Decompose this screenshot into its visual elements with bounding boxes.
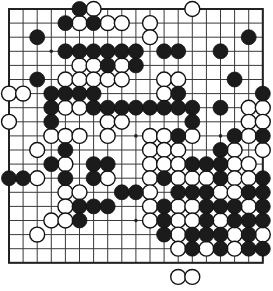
white-stone[interactable]: [72, 100, 87, 115]
black-stone[interactable]: [100, 58, 115, 73]
black-stone[interactable]: [199, 157, 214, 172]
black-stone[interactable]: [171, 100, 186, 115]
white-stone[interactable]: [143, 157, 158, 172]
black-stone[interactable]: [100, 100, 115, 115]
white-stone[interactable]: [143, 185, 158, 200]
go-board-area[interactable]: [0, 0, 273, 291]
white-stone[interactable]: [213, 213, 228, 228]
black-stone[interactable]: [227, 213, 242, 228]
white-stone[interactable]: [171, 157, 186, 172]
black-stone[interactable]: [58, 171, 73, 186]
black-stone[interactable]: [86, 16, 101, 31]
goban-grid[interactable]: [0, 0, 273, 291]
black-stone[interactable]: [213, 227, 228, 242]
black-stone[interactable]: [44, 86, 59, 101]
white-stone[interactable]: [86, 72, 101, 87]
white-stone[interactable]: [44, 128, 59, 143]
white-stone[interactable]: [185, 2, 200, 17]
black-stone[interactable]: [44, 157, 59, 172]
black-stone[interactable]: [128, 44, 143, 59]
black-stone[interactable]: [2, 171, 17, 186]
white-stone[interactable]: [171, 241, 186, 256]
black-stone[interactable]: [199, 199, 214, 214]
black-stone[interactable]: [255, 128, 270, 143]
black-stone[interactable]: [255, 86, 270, 101]
white-stone[interactable]: [157, 143, 172, 158]
black-stone[interactable]: [227, 72, 242, 87]
black-stone[interactable]: [157, 199, 172, 214]
black-stone[interactable]: [227, 199, 242, 214]
black-stone[interactable]: [58, 86, 73, 101]
white-stone[interactable]: [72, 185, 87, 200]
white-stone[interactable]: [100, 128, 115, 143]
white-stone[interactable]: [171, 143, 186, 158]
white-stone[interactable]: [114, 16, 129, 31]
white-stone[interactable]: [58, 213, 73, 228]
black-stone[interactable]: [255, 241, 270, 256]
white-stone[interactable]: [227, 185, 242, 200]
black-stone[interactable]: [143, 100, 158, 115]
white-stone[interactable]: [30, 171, 45, 186]
black-stone[interactable]: [100, 199, 115, 214]
black-stone[interactable]: [58, 44, 73, 59]
black-stone[interactable]: [241, 30, 256, 45]
white-stone[interactable]: [72, 16, 87, 31]
white-stone[interactable]: [143, 30, 158, 45]
white-stone[interactable]: [86, 58, 101, 73]
black-stone[interactable]: [72, 86, 87, 101]
black-stone[interactable]: [86, 199, 101, 214]
black-stone[interactable]: [86, 100, 101, 115]
white-stone[interactable]: [171, 199, 186, 214]
white-stone[interactable]: [58, 100, 73, 115]
black-stone[interactable]: [171, 128, 186, 143]
white-stone[interactable]: [227, 227, 242, 242]
white-stone[interactable]: [44, 213, 59, 228]
black-stone[interactable]: [255, 171, 270, 186]
black-stone[interactable]: [100, 157, 115, 172]
white-stone[interactable]: [157, 86, 172, 101]
black-stone[interactable]: [86, 44, 101, 59]
white-stone[interactable]: [30, 227, 45, 242]
black-stone[interactable]: [114, 44, 129, 59]
white-stone[interactable]: [143, 16, 158, 31]
white-stone[interactable]: [185, 128, 200, 143]
white-stone[interactable]: [2, 86, 17, 101]
white-stone[interactable]: [255, 227, 270, 242]
white-stone[interactable]: [58, 157, 73, 172]
white-stone[interactable]: [143, 213, 158, 228]
white-stone[interactable]: [157, 72, 172, 87]
white-stone[interactable]: [114, 114, 129, 129]
black-stone[interactable]: [199, 213, 214, 228]
black-stone[interactable]: [86, 86, 101, 101]
white-stone[interactable]: [213, 185, 228, 200]
black-stone[interactable]: [185, 227, 200, 242]
black-stone[interactable]: [86, 171, 101, 186]
white-stone[interactable]: [227, 241, 242, 256]
black-stone[interactable]: [128, 185, 143, 200]
white-stone[interactable]: [143, 143, 158, 158]
black-stone[interactable]: [241, 227, 256, 242]
black-stone[interactable]: [44, 114, 59, 129]
black-stone[interactable]: [86, 157, 101, 172]
white-stone[interactable]: [171, 72, 186, 87]
white-stone[interactable]: [100, 16, 115, 31]
black-stone[interactable]: [213, 143, 228, 158]
black-stone[interactable]: [157, 171, 172, 186]
black-stone[interactable]: [30, 72, 45, 87]
white-stone[interactable]: [72, 58, 87, 73]
white-stone[interactable]: [171, 227, 186, 242]
black-stone[interactable]: [114, 100, 129, 115]
captured-white-stone[interactable]: [185, 269, 200, 284]
white-stone[interactable]: [185, 213, 200, 228]
black-stone[interactable]: [171, 44, 186, 59]
black-stone[interactable]: [241, 241, 256, 256]
black-stone[interactable]: [58, 143, 73, 158]
black-stone[interactable]: [199, 185, 214, 200]
black-stone[interactable]: [213, 157, 228, 172]
black-stone[interactable]: [185, 114, 200, 129]
black-stone[interactable]: [185, 157, 200, 172]
black-stone[interactable]: [241, 185, 256, 200]
black-stone[interactable]: [227, 128, 242, 143]
black-stone[interactable]: [157, 100, 172, 115]
white-stone[interactable]: [241, 128, 256, 143]
